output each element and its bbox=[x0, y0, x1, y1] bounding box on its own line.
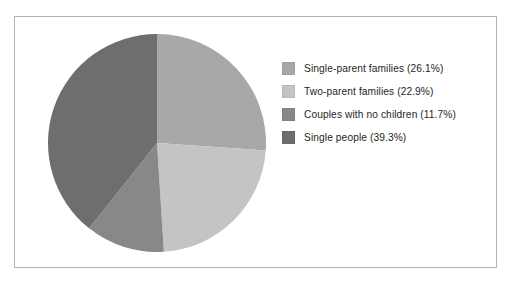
chart-frame: Single-parent families (26.1%)Two-parent… bbox=[14, 16, 497, 268]
legend-item[interactable]: Two-parent families (22.9%) bbox=[282, 80, 492, 103]
pie-slice[interactable] bbox=[157, 34, 266, 151]
legend-swatch bbox=[282, 85, 295, 98]
legend-item[interactable]: Couples with no children (11.7%) bbox=[282, 103, 492, 126]
pie-chart-svg bbox=[47, 33, 267, 253]
legend-swatch bbox=[282, 131, 295, 144]
pie-slice-group bbox=[48, 34, 266, 252]
legend-label: Couples with no children (11.7%) bbox=[304, 108, 456, 121]
pie-slice[interactable] bbox=[157, 143, 266, 252]
legend-swatch bbox=[282, 62, 295, 75]
pie-chart-area: Single-parent families (26.1%)Two-parent… bbox=[15, 17, 498, 269]
legend-item[interactable]: Single-parent families (26.1%) bbox=[282, 57, 492, 80]
legend-label: Two-parent families (22.9%) bbox=[304, 85, 434, 98]
legend-label: Single people (39.3%) bbox=[304, 131, 406, 144]
legend-swatch bbox=[282, 108, 295, 121]
legend-item[interactable]: Single people (39.3%) bbox=[282, 126, 492, 149]
pie-chart bbox=[47, 33, 267, 253]
chart-legend: Single-parent families (26.1%)Two-parent… bbox=[282, 57, 492, 149]
legend-label: Single-parent families (26.1%) bbox=[304, 62, 443, 75]
